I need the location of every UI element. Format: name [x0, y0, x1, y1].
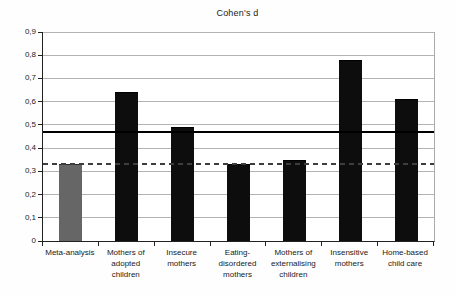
bar: [395, 99, 418, 241]
gridline: [43, 101, 434, 102]
x-category-label: Mothers ofadoptedchildren: [97, 247, 155, 280]
bar: [171, 127, 194, 241]
x-category-label-line: adopted: [97, 258, 155, 269]
x-category-label-line: mothers: [320, 258, 378, 269]
x-category-label-line: Insensitive: [320, 247, 378, 258]
x-axis-tick: [210, 242, 211, 246]
bar: [115, 92, 138, 241]
y-axis-tick: [38, 32, 42, 33]
x-category-label-line: child care: [376, 258, 434, 269]
x-category-label-line: children: [97, 269, 155, 280]
chart-title: Cohen's d: [42, 8, 433, 18]
x-category-label: Home-basedchild care: [376, 247, 434, 269]
y-axis-tick-label: 0: [0, 236, 36, 246]
x-category-label: Insecuremothers: [153, 247, 211, 269]
x-category-label-line: Mothers of: [97, 247, 155, 258]
y-axis-tick-label: 0,3: [0, 166, 36, 176]
x-category-label-line: children: [264, 269, 322, 280]
x-category-label-line: Mothers of: [264, 247, 322, 258]
y-axis-tick: [38, 101, 42, 102]
y-axis-tick: [38, 171, 42, 172]
bar-chart-figure: Cohen's d 00,10,20,30,40,50,60,70,80,9Me…: [0, 0, 455, 296]
x-axis-tick: [42, 242, 43, 246]
y-axis-tick: [38, 78, 42, 79]
y-axis-tick: [38, 194, 42, 195]
x-category-label-line: Home-based: [376, 247, 434, 258]
gridline: [43, 148, 434, 149]
dashed-reference-line: [43, 163, 434, 165]
x-category-label-line: mothers: [153, 258, 211, 269]
x-axis-tick: [321, 242, 322, 246]
solid-reference-line: [43, 131, 434, 133]
y-axis-tick-label: 0,7: [0, 73, 36, 83]
gridline: [43, 124, 434, 125]
x-axis-tick: [265, 242, 266, 246]
bar: [339, 60, 362, 241]
x-category-label: Mothers ofexternalisingchildren: [264, 247, 322, 280]
y-axis-tick: [38, 148, 42, 149]
y-axis-tick-label: 0,8: [0, 50, 36, 60]
gridline: [43, 55, 434, 56]
x-category-label: Eating-disorderedmothers: [209, 247, 267, 280]
x-category-label-line: externalising: [264, 258, 322, 269]
y-axis-tick: [38, 217, 42, 218]
y-axis-tick-label: 0,9: [0, 27, 36, 37]
x-axis-tick: [377, 242, 378, 246]
x-category-label-line: Eating-: [209, 247, 267, 258]
x-category-label-line: Insecure: [153, 247, 211, 258]
x-category-label-line: disordered: [209, 258, 267, 269]
x-category-label: Meta-analysis: [41, 247, 99, 258]
x-axis-tick: [154, 242, 155, 246]
y-axis-tick-label: 0,2: [0, 190, 36, 200]
bar: [227, 164, 250, 241]
x-category-label-line: Meta-analysis: [41, 247, 99, 258]
y-axis-tick-label: 0,1: [0, 213, 36, 223]
y-axis-tick-label: 0,6: [0, 97, 36, 107]
bar: [59, 164, 82, 241]
y-axis-tick-label: 0,5: [0, 120, 36, 130]
gridline: [43, 78, 434, 79]
plot-area: [42, 32, 435, 242]
y-axis-tick-label: 0,4: [0, 143, 36, 153]
x-category-label-line: mothers: [209, 269, 267, 280]
bar: [283, 160, 306, 241]
x-axis-tick: [433, 242, 434, 246]
x-category-label: Insensitivemothers: [320, 247, 378, 269]
gridline: [43, 32, 434, 33]
y-axis-tick: [38, 124, 42, 125]
x-axis-tick: [98, 242, 99, 246]
y-axis-tick: [38, 55, 42, 56]
